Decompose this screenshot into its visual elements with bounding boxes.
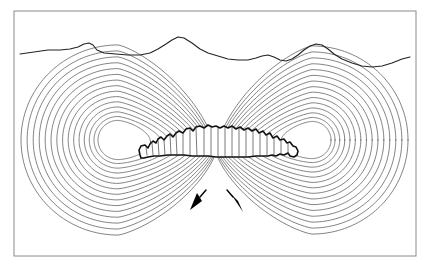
ground-surface-line (20, 37, 410, 67)
figure-root (0, 0, 432, 271)
contour-field-diagram (0, 0, 432, 271)
right-down-arrow-stem (227, 190, 233, 197)
direction-arrows (190, 190, 243, 212)
right-down-arrow-head (231, 194, 243, 212)
left-down-arrow-head (190, 193, 202, 210)
left-down-arrow-stem (200, 190, 206, 197)
